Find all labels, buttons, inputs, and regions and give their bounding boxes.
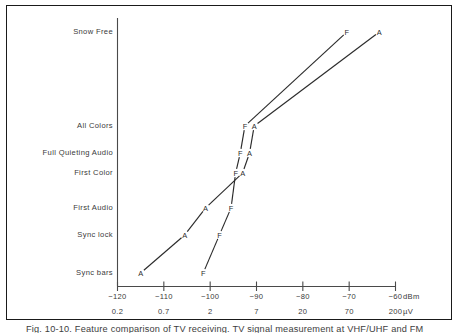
x-tick-label-uv: 2 bbox=[208, 307, 213, 316]
series-segment bbox=[244, 157, 248, 169]
series-segment bbox=[144, 238, 182, 271]
data-point-label-f: F bbox=[217, 232, 222, 239]
series-segment bbox=[241, 130, 244, 149]
data-point-label-f: F bbox=[345, 29, 350, 36]
data-point-label-a: A bbox=[247, 150, 252, 157]
x-unit-uv: µV bbox=[403, 307, 413, 316]
series-line-a bbox=[144, 35, 376, 271]
plot-area bbox=[0, 0, 459, 333]
x-tick-label-uv: 70 bbox=[345, 307, 354, 316]
x-tick-label-dbm: −120 bbox=[108, 292, 126, 301]
series-segment bbox=[250, 130, 253, 149]
data-point-label-a: A bbox=[138, 270, 143, 277]
x-tick-label-uv: 0.7 bbox=[158, 307, 169, 316]
data-point-label-a: A bbox=[203, 205, 208, 212]
series-segment bbox=[221, 212, 229, 231]
data-point-label-f: F bbox=[238, 150, 243, 157]
x-tick-label-dbm: −80 bbox=[296, 292, 310, 301]
figure-container: Snow Free All Colors Full Quieting Audio… bbox=[0, 0, 459, 333]
x-tick-label-uv: 200 bbox=[389, 307, 403, 316]
series-segment bbox=[237, 157, 240, 169]
data-point-label-a: A bbox=[377, 29, 382, 36]
x-unit-dbm: dBm bbox=[403, 292, 420, 301]
series-segment bbox=[248, 35, 344, 123]
x-tick-label-uv: 20 bbox=[298, 307, 307, 316]
data-point-label-f: F bbox=[233, 170, 238, 177]
data-point-label-f: F bbox=[201, 270, 206, 277]
series-segment bbox=[258, 35, 376, 124]
series-segment bbox=[205, 239, 218, 269]
series-line-f bbox=[205, 35, 344, 269]
axis-lines bbox=[118, 18, 397, 287]
data-point-label-a: A bbox=[182, 232, 187, 239]
x-tick-label-dbm: −70 bbox=[342, 292, 356, 301]
x-tick-label-dbm: −100 bbox=[201, 292, 219, 301]
data-point-label-f: F bbox=[243, 123, 248, 130]
figure-caption: Fig. 10-10. Feature comparison of TV rec… bbox=[26, 324, 456, 333]
data-point-label-a: A bbox=[252, 123, 257, 130]
x-tick-label-uv: 0.2 bbox=[112, 307, 123, 316]
data-point-label-f: F bbox=[229, 205, 234, 212]
x-tick-label-dbm: −90 bbox=[250, 292, 264, 301]
x-tick-label-dbm: −60 bbox=[389, 292, 403, 301]
data-point-label-a: A bbox=[240, 170, 245, 177]
series-segment bbox=[187, 211, 203, 231]
x-tick-label-uv: 7 bbox=[254, 307, 259, 316]
x-tick-label-dbm: −110 bbox=[155, 292, 173, 301]
